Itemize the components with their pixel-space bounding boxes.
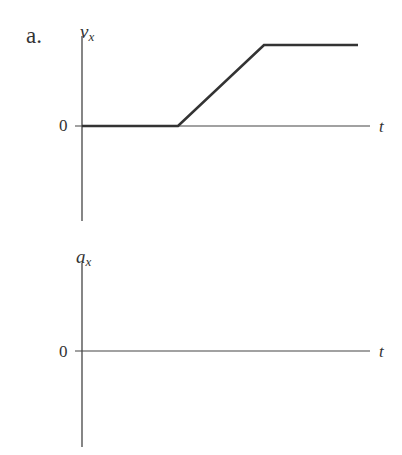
acceleration-graph — [75, 263, 370, 447]
velocity-graph — [75, 36, 370, 221]
vx-curve — [82, 45, 358, 126]
graphs-svg — [0, 0, 402, 455]
